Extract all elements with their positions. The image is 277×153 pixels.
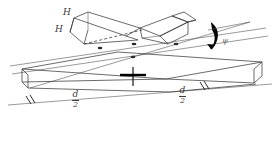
horizontal-beam: [22, 52, 262, 92]
dimension-left-denominator: 2: [73, 101, 78, 109]
tick-right-b: [204, 81, 209, 89]
figure-canvas: H H ψ d 2 d 2: [0, 0, 277, 153]
upper-right-beam-bottom-edge: [140, 28, 168, 44]
dimension-left-numerator: d: [73, 90, 79, 99]
dimension-label-left: d 2: [72, 90, 79, 109]
upper-right-beam-cap: [172, 12, 196, 22]
beam-right-end-face: [254, 62, 262, 83]
label-height-lower: H: [55, 25, 63, 34]
beam-right-front-edge: [166, 79, 254, 83]
tick-left-a: [26, 96, 31, 104]
joint-node-center: [132, 43, 137, 45]
dimension-right-numerator: d: [180, 86, 186, 95]
upper-right-beam-cap-edge: [188, 20, 196, 22]
beam-lower-front-edge: [28, 88, 170, 92]
upper-left-beam-left-edge: [70, 18, 74, 32]
joint-node-left: [98, 47, 103, 49]
joint-node-right: [174, 43, 179, 45]
tick-left-b: [30, 95, 35, 103]
joint-node-lower: [131, 56, 136, 58]
upper-right-beam-side-face: [160, 22, 188, 44]
dimension-right-denominator: 2: [180, 97, 185, 105]
dimension-label-right: d 2: [179, 86, 186, 105]
beam-joint-drawing: [0, 0, 277, 153]
upper-right-beam-inner-edge: [142, 36, 160, 38]
label-rotation-angle: ψ: [222, 37, 228, 45]
upper-left-beam-top-face: [74, 12, 140, 36]
upper-left-beam-bottom-edge: [84, 40, 138, 44]
dimension-line-bottom: [8, 84, 272, 105]
upper-left-beam-right-edge: [126, 36, 138, 40]
upper-right-beam: [140, 12, 196, 44]
beam-lower-back-edge: [22, 79, 166, 82]
label-height-upper: H: [63, 8, 71, 17]
